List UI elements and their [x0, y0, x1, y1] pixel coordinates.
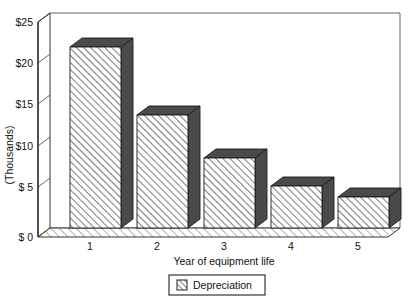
x-tick-label: 5 [355, 240, 361, 252]
bar-year-5 [338, 188, 401, 228]
x-tick-label: 4 [288, 240, 294, 252]
bar-year-4 [271, 177, 334, 228]
x-axis-title: Year of equipment life [173, 255, 274, 267]
y-tick-label: $ 5 [18, 181, 33, 193]
bar-year-2 [137, 106, 200, 228]
y-axis-tick-labels: $25 $20 $15 $10 $ 5 $ 0 [15, 16, 33, 243]
y-tick-label: $25 [15, 16, 33, 28]
bar-year-3 [204, 149, 267, 228]
y-tick-label: $ 0 [18, 231, 33, 243]
legend-label-depreciation: Depreciation [193, 279, 252, 291]
x-tick-label: 1 [87, 240, 93, 252]
depreciation-bar-chart: $25 $20 $15 $10 $ 5 $ 0 (Thousands) [0, 0, 412, 300]
y-tick-label: $15 [15, 98, 33, 110]
x-axis-tick-labels: 1 2 3 4 5 [87, 240, 361, 252]
legend-swatch-depreciation [177, 280, 187, 290]
y-axis-wall [38, 13, 50, 237]
chart-legend: Depreciation [169, 275, 265, 295]
y-tick-label: $10 [15, 140, 33, 152]
x-tick-label: 3 [221, 240, 227, 252]
y-tick-label: $20 [15, 57, 33, 69]
chart-canvas: $25 $20 $15 $10 $ 5 $ 0 (Thousands) [0, 0, 412, 300]
x-tick-label: 2 [154, 240, 160, 252]
y-axis-title: (Thousands) [3, 126, 15, 185]
bar-year-1 [70, 38, 133, 228]
chart-floor [38, 228, 400, 237]
